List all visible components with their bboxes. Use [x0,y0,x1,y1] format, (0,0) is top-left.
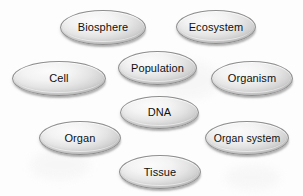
node-organ[interactable]: Organ [39,121,121,155]
node-label-organ: Organ [62,133,97,144]
node-label-ecosystem: Ecosystem [187,22,246,33]
node-label-dna: DNA [146,107,174,118]
node-dna[interactable]: DNA [120,96,199,129]
node-tissue[interactable]: Tissue [119,155,201,189]
node-ecosystem[interactable]: Ecosystem [176,10,256,44]
node-label-biosphere: Biosphere [76,22,130,33]
paper-smudge [225,165,280,190]
node-label-population: Population [129,63,186,74]
node-label-organism: Organism [226,73,278,84]
node-organ-system[interactable]: Organ system [205,121,289,155]
node-label-organ-system: Organ system [212,133,283,144]
node-biosphere[interactable]: Biosphere [60,10,146,45]
node-cell[interactable]: Cell [12,61,106,96]
node-organism[interactable]: Organism [211,61,293,96]
node-label-tissue: Tissue [142,167,179,178]
node-label-cell: Cell [47,73,70,84]
node-population[interactable]: Population [118,51,197,85]
diagram-canvas: Biosphere Ecosystem Cell Population Orga… [0,0,303,196]
